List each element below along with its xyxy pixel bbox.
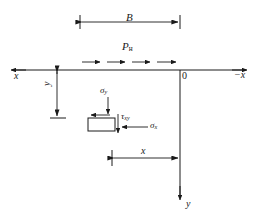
stress-element-box bbox=[88, 118, 115, 131]
label-sigma-x: σx bbox=[150, 121, 157, 130]
label-x-axis-left: x bbox=[14, 71, 18, 81]
label-tau-xy: τxy bbox=[121, 112, 130, 121]
label-sigma-y: σy bbox=[100, 86, 107, 95]
label-x-axis-right: −x bbox=[234, 70, 245, 80]
label-tau-xy-subscript: xy bbox=[124, 115, 129, 121]
label-origin: 0 bbox=[182, 71, 187, 81]
stress-element-group bbox=[88, 97, 148, 133]
dimension-y-depth bbox=[50, 66, 66, 118]
label-load-P: Pн bbox=[122, 41, 133, 54]
label-x-axis-right-letter: x bbox=[241, 69, 245, 80]
label-sigma-y-subscript: y bbox=[104, 89, 107, 95]
label-load-P-main: P bbox=[122, 40, 129, 52]
label-sigma-x-subscript: x bbox=[154, 124, 157, 130]
diagram-canvas bbox=[0, 0, 259, 222]
label-distance-x: x bbox=[141, 146, 145, 156]
label-depth-y: y bbox=[42, 82, 52, 86]
label-load-P-subscript: н bbox=[129, 45, 133, 53]
engineering-diagram: B Pн x 0 −x y σy τxy σx x y bbox=[0, 0, 259, 222]
label-y-axis-down: y bbox=[186, 199, 190, 209]
label-x-axis-right-sign: − bbox=[234, 69, 241, 80]
label-width-B: B bbox=[126, 12, 133, 23]
